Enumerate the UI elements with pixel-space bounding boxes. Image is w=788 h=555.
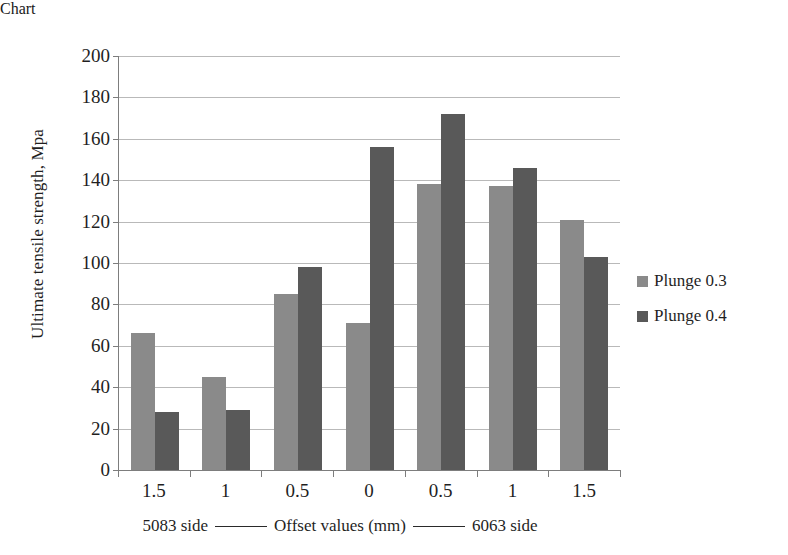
x-tick-mark (261, 470, 262, 477)
x-caption-left: 5083 side (142, 516, 208, 536)
bar (513, 168, 537, 470)
bar (560, 220, 584, 470)
x-tick-mark (548, 470, 549, 477)
bar (131, 333, 155, 470)
y-tick-label-140: 140 (82, 169, 111, 191)
bar (489, 186, 513, 470)
bar (226, 410, 250, 470)
x-tick-mark (405, 470, 406, 477)
legend-swatch-icon (637, 276, 648, 287)
legend: Plunge 0.3Plunge 0.4 (637, 271, 727, 326)
x-tick-label-0: 1.5 (118, 480, 190, 502)
x-axis-ticks (118, 470, 620, 478)
x-caption-right: 6063 side (472, 516, 538, 536)
x-caption-center: Offset values (mm) (274, 516, 406, 536)
bars-layer (119, 56, 620, 470)
y-tick-label-200: 200 (82, 45, 111, 67)
plot-area: 200180160140120100806040200 (118, 56, 620, 470)
bar-group (334, 56, 406, 470)
y-tick-label-60: 60 (91, 335, 110, 357)
x-tick-label-5: 1 (477, 480, 549, 502)
bar (370, 147, 394, 470)
bar (346, 323, 370, 470)
bar (155, 412, 179, 470)
legend-item-0[interactable]: Plunge 0.3 (637, 271, 727, 291)
legend-label: Plunge 0.3 (654, 271, 727, 291)
bar (274, 294, 298, 470)
y-axis-title: Ultimate tensile strength, Mpa (28, 44, 48, 424)
x-tick-mark (190, 470, 191, 477)
x-axis-caption: 5083 side Offset values (mm) 6063 side (40, 516, 640, 536)
x-tick-label-3: 0 (333, 480, 405, 502)
caption-rule-left (215, 526, 267, 527)
bar-group (119, 56, 191, 470)
x-tick-mark (333, 470, 334, 477)
bar (202, 377, 226, 470)
x-axis-labels: 1.510.500.511.5 (118, 480, 620, 502)
bar (298, 267, 322, 470)
y-tick-label-120: 120 (82, 211, 111, 233)
x-tick-mark (477, 470, 478, 477)
bar-group (191, 56, 263, 470)
y-tick-label-100: 100 (82, 252, 111, 274)
bar (584, 257, 608, 470)
x-tick-label-1: 1 (190, 480, 262, 502)
legend-label: Plunge 0.4 (654, 306, 727, 326)
y-tick-label-160: 160 (82, 128, 111, 150)
bar (417, 184, 441, 470)
bar-group (548, 56, 620, 470)
x-tick-label-4: 0.5 (405, 480, 477, 502)
y-tick-label-20: 20 (91, 418, 110, 440)
legend-item-1[interactable]: Plunge 0.4 (637, 306, 727, 326)
x-tick-label-6: 1.5 (548, 480, 620, 502)
x-tick-mark (118, 470, 119, 477)
y-tick-label-180: 180 (82, 86, 111, 108)
bar-chart: Ultimate tensile strength, Mpa 200180160… (0, 18, 788, 555)
x-tick-mark (620, 470, 621, 477)
y-tick-label-80: 80 (91, 293, 110, 315)
caption-rule-right (413, 526, 465, 527)
bar-group (405, 56, 477, 470)
y-tick-label-0: 0 (101, 459, 111, 481)
x-tick-label-2: 0.5 (261, 480, 333, 502)
legend-swatch-icon (637, 311, 648, 322)
bar-group (262, 56, 334, 470)
bar (441, 114, 465, 470)
y-tick-label-40: 40 (91, 376, 110, 398)
bar-group (477, 56, 549, 470)
